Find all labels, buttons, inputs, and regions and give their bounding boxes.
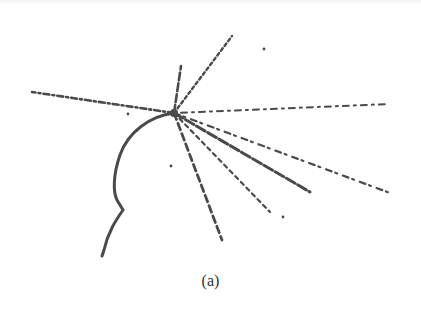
straight-track: [32, 92, 174, 113]
straight-track: [174, 104, 388, 113]
speck: [282, 216, 285, 219]
interaction-vertex: [170, 109, 178, 117]
speck: [263, 48, 266, 51]
speck: [127, 113, 130, 116]
straight-track: [174, 113, 310, 192]
speck: [170, 165, 173, 168]
particle-tracks-image: [0, 0, 421, 317]
figure-panel: (a): [0, 0, 421, 317]
straight-track: [174, 113, 390, 193]
figure-caption: (a): [0, 272, 421, 290]
straight-track: [174, 113, 270, 212]
straight-track: [174, 36, 232, 113]
curved-track: [102, 113, 174, 256]
straight-track: [174, 113, 222, 240]
